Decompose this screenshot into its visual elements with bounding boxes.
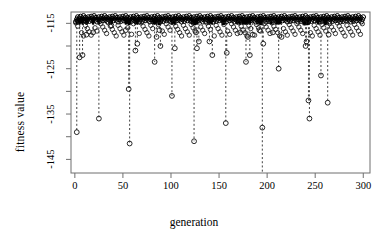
y-tick-label-text: -115: [27, 14, 75, 33]
x-axis-title: generation: [0, 216, 388, 228]
plot-box: [71, 12, 370, 173]
y-tick-label: -135: [36, 90, 66, 138]
y-tick-label: -145: [36, 135, 66, 183]
x-tick-label: 200: [247, 180, 287, 191]
y-tick-label-text: -135: [27, 104, 75, 123]
x-tick-label: 100: [151, 180, 191, 191]
y-tick-label: -125: [36, 45, 66, 93]
y-tick-label: -115: [36, 0, 66, 47]
data-point: [192, 139, 197, 144]
x-tick-label: 50: [103, 180, 143, 191]
data-point: [261, 41, 266, 46]
y-axis-title: fitness value: [14, 91, 26, 151]
x-tick-label: 250: [295, 180, 335, 191]
x-tick-label: 150: [199, 180, 239, 191]
y-tick-label-text: -145: [27, 150, 75, 169]
x-tick-label: 0: [55, 180, 95, 191]
data-point: [135, 41, 140, 46]
fitness-plot-figure: fitness value generation -115-125-135-14…: [0, 0, 388, 243]
data-point: [129, 32, 133, 36]
x-tick-label: 300: [343, 180, 383, 191]
data-point: [137, 31, 141, 35]
y-tick-label-text: -125: [27, 59, 75, 78]
